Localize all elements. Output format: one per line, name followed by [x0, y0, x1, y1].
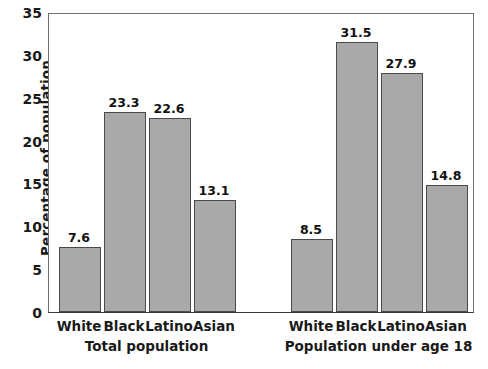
x-group-label: Total population — [37, 340, 257, 354]
bar-value-label: 14.8 — [415, 170, 477, 183]
x-category-label: Asian — [415, 320, 477, 334]
y-tick-label: 0 — [16, 306, 42, 320]
y-tick-label: 20 — [16, 135, 42, 149]
bar-value-label: 13.1 — [183, 185, 245, 198]
y-axis-tick-labels: 05101520253035 — [14, 0, 42, 369]
bar-value-label: 22.6 — [138, 103, 200, 116]
y-tick-label: 15 — [16, 177, 42, 191]
bar — [59, 247, 101, 312]
y-tick-label: 10 — [16, 220, 42, 234]
x-group-label: Population under age 18 — [269, 340, 488, 354]
bar — [194, 200, 236, 312]
bar — [381, 73, 423, 312]
bar-value-label: 31.5 — [325, 27, 387, 40]
x-category-label: Asian — [183, 320, 245, 334]
y-tick-label: 30 — [16, 49, 42, 63]
y-tick-label: 35 — [16, 6, 42, 20]
bar — [336, 42, 378, 312]
bar-value-label: 7.6 — [48, 232, 110, 245]
bar — [149, 118, 191, 312]
bar-chart-figure: Percentage of population 05101520253035 … — [0, 0, 488, 369]
y-tick-label: 5 — [16, 263, 42, 277]
y-tick-label: 25 — [16, 92, 42, 106]
bar — [291, 239, 333, 312]
bar — [104, 112, 146, 312]
bar-value-label: 27.9 — [370, 58, 432, 71]
bar — [426, 185, 468, 312]
bar-value-label: 8.5 — [280, 224, 342, 237]
